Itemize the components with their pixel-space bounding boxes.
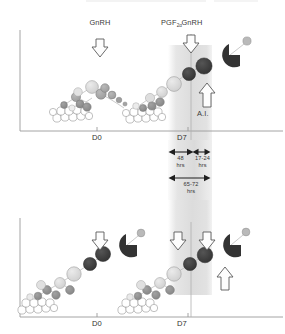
follicle <box>34 292 42 300</box>
interval-17-24-value: 17-24 <box>190 156 215 162</box>
follicle <box>69 105 75 111</box>
upper-panel <box>20 30 283 140</box>
follicle <box>52 291 60 299</box>
dominant-follicle <box>67 267 81 281</box>
upper-ai-label: A.I. <box>197 110 209 118</box>
follicle <box>108 91 116 99</box>
ovulated-oocyte <box>137 229 145 237</box>
dominant-follicle <box>167 267 181 281</box>
follicle <box>123 102 127 106</box>
follicle <box>37 281 46 290</box>
dominant-follicle <box>183 257 196 270</box>
follicle <box>55 278 66 289</box>
interval-65-72-unit: hrs <box>177 189 205 195</box>
follicle <box>101 84 110 93</box>
interval-17-24-unit: hrs <box>190 163 215 169</box>
dominant-follicle <box>83 257 96 270</box>
follicle <box>83 103 91 111</box>
preovulatory-follicle <box>197 247 213 263</box>
preovulatory-follicle <box>95 246 110 261</box>
preovulatory-follicle <box>196 58 212 74</box>
upper-gnrh1-arrow <box>92 39 108 57</box>
follicle <box>134 292 142 300</box>
follicle <box>139 104 146 111</box>
lower-axis-tick-d7: D7 <box>172 320 192 328</box>
follicle <box>74 88 83 97</box>
follicle <box>157 87 168 98</box>
follicle <box>137 281 146 290</box>
dominant-follicle <box>167 77 182 92</box>
upper-wave-1 <box>49 81 127 123</box>
follicle <box>127 294 134 301</box>
follicle <box>61 102 68 109</box>
corpus-luteum-shape <box>223 234 241 257</box>
dominant-follicle <box>182 67 195 80</box>
follicle <box>145 93 154 102</box>
follicle <box>133 103 140 110</box>
upper-axis-tick-d7: D7 <box>172 134 192 142</box>
follicle <box>148 102 156 110</box>
upper-axis-tick-d0: D0 <box>87 134 107 142</box>
upper-gnrh2-label: GnRH <box>174 19 210 27</box>
follicle <box>166 286 175 295</box>
follicle <box>66 286 75 295</box>
lower-axis-tick-d0: D0 <box>87 320 107 328</box>
follicle <box>27 294 34 301</box>
follicle <box>152 291 160 299</box>
lower-ai-arrow <box>217 267 233 290</box>
ovulated-oocyte <box>243 37 251 45</box>
follicle <box>156 98 165 107</box>
follicle <box>155 278 166 289</box>
lower-panel <box>18 218 283 317</box>
scan-artifact-top <box>86 0 258 2</box>
ovulated-oocyte <box>242 228 250 236</box>
upper-gnrh1-label: GnRH <box>82 19 118 27</box>
corpus-luteum-shape <box>222 44 240 67</box>
follicular-wave-diagram <box>0 0 285 334</box>
interval-65-72-value: 65-72 <box>177 182 205 188</box>
corpus-luteum-shape <box>119 234 137 257</box>
primordial-follicle-cluster <box>18 298 58 314</box>
follicle <box>116 97 122 103</box>
primordial-follicle-cluster <box>118 298 158 314</box>
